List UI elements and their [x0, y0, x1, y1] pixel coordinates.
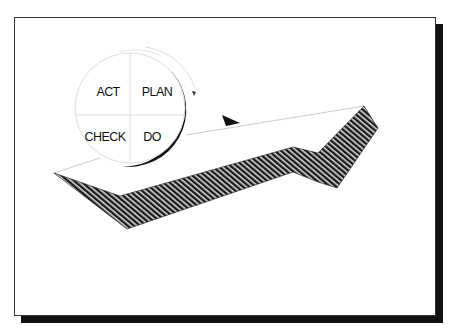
label-plan: PLAN — [142, 85, 173, 99]
rotation-arrowhead-icon — [192, 91, 196, 96]
direction-arrowhead-icon — [222, 115, 240, 126]
label-act: ACT — [96, 85, 120, 99]
pdca-diagram: ACT PLAN CHECK DO — [0, 0, 456, 334]
slope-top-line-left — [54, 158, 100, 173]
slope-top-line-right — [186, 106, 364, 135]
label-check: CHECK — [85, 130, 127, 144]
label-do: DO — [143, 130, 161, 144]
